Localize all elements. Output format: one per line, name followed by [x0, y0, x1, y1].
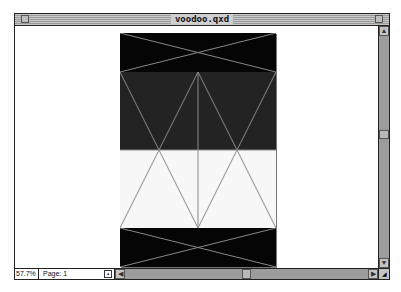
vertical-scroll-thumb[interactable] — [379, 130, 389, 139]
document-page[interactable] — [120, 33, 276, 267]
document-window: voodoo.qxd ▲ ▼ 57.7% Page: 1 ▪ ◀ ▶ ◢ — [14, 13, 390, 280]
page-nav-icon[interactable]: ▪ — [104, 270, 112, 278]
window-title: voodoo.qxd — [171, 14, 233, 25]
close-box-icon[interactable] — [21, 15, 29, 23]
scroll-right-arrow-icon[interactable]: ▶ — [368, 269, 378, 279]
scroll-left-arrow-icon[interactable]: ◀ — [115, 269, 125, 279]
scroll-down-arrow-icon[interactable]: ▼ — [379, 258, 389, 268]
resize-grip-icon[interactable]: ◢ — [378, 268, 389, 279]
document-canvas[interactable] — [15, 26, 378, 268]
zoom-level-field[interactable]: 57.7% — [15, 269, 39, 279]
title-bar[interactable]: voodoo.qxd — [15, 14, 389, 26]
zoom-box-icon[interactable] — [375, 15, 383, 23]
status-bar: 57.7% Page: 1 ▪ ◀ ▶ — [15, 268, 389, 279]
horizontal-scroll-thumb[interactable] — [242, 269, 251, 279]
page-artwork — [120, 33, 276, 267]
scroll-up-arrow-icon[interactable]: ▲ — [379, 26, 389, 36]
vertical-scrollbar[interactable]: ▲ ▼ — [378, 26, 389, 268]
page-number-field[interactable]: Page: 1 — [40, 269, 103, 279]
horizontal-scrollbar[interactable]: ◀ ▶ — [114, 269, 378, 279]
